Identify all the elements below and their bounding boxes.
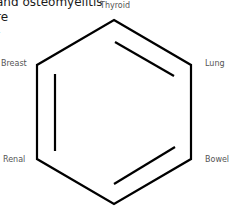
label-renal: Renal xyxy=(3,155,25,165)
inner-bond-lower-right xyxy=(114,147,175,184)
label-lung: Lung xyxy=(205,59,225,69)
inner-bond-upper-right xyxy=(115,42,174,76)
label-bowel: Bowel xyxy=(205,155,229,165)
label-breast: Breast xyxy=(1,59,27,69)
hexagon-diagram xyxy=(0,0,229,210)
label-thyroid: Thyroid xyxy=(100,1,130,11)
hexagon-outline xyxy=(37,20,191,204)
